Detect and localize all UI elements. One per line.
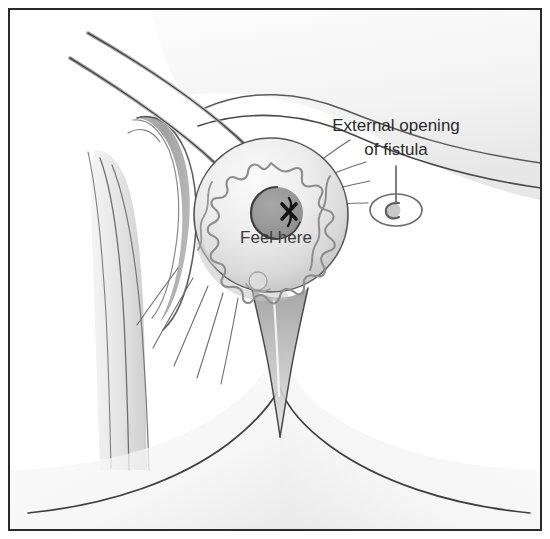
callout-label-line2: of fistula: [364, 140, 428, 159]
illustration-canvas: Feel here External opening of fistula: [0, 0, 550, 539]
callout-label-line1: External opening: [332, 116, 460, 135]
illustration-figure: Feel here External opening of fistula: [0, 0, 550, 539]
perianal-skin-tag: [249, 272, 267, 290]
feel-here-label: Feel here: [240, 228, 312, 247]
